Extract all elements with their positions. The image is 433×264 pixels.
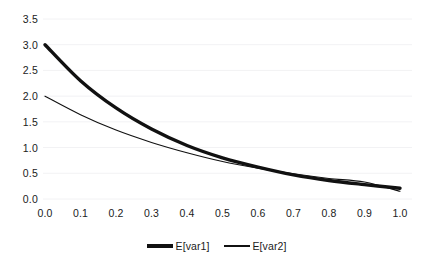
legend-label: E[var1] (176, 241, 210, 252)
y-tick-label-7: 3.5 (12, 14, 38, 25)
series-line-e-var1 (45, 45, 400, 188)
x-tick-label-7: 0.7 (279, 208, 309, 219)
x-tick-label-10: 1.0 (385, 208, 415, 219)
legend-label: E[var2] (253, 241, 287, 252)
y-tick-label-6: 3.0 (12, 40, 38, 51)
x-tick-label-3: 0.3 (137, 208, 167, 219)
y-tick-label-0: 0.0 (12, 194, 38, 205)
series-line-e-var2 (45, 96, 400, 191)
x-tick-label-0: 0.0 (30, 208, 60, 219)
line-chart: 0.00.51.01.52.02.53.03.5 0.00.10.20.30.4… (0, 0, 433, 264)
chart-legend: E[var1]E[var2] (0, 236, 433, 256)
y-tick-label-3: 1.5 (12, 117, 38, 128)
legend-entry-1[interactable]: E[var2] (224, 241, 287, 252)
x-tick-label-5: 0.5 (208, 208, 238, 219)
series-lines (45, 45, 400, 192)
x-tick-label-6: 0.6 (243, 208, 273, 219)
x-tick-label-8: 0.8 (314, 208, 344, 219)
x-tick-label-1: 0.1 (66, 208, 96, 219)
legend-line-swatch-icon (224, 245, 250, 246)
legend-line-swatch-icon (147, 244, 173, 247)
y-tick-label-1: 0.5 (12, 168, 38, 179)
x-tick-label-2: 0.2 (101, 208, 131, 219)
y-tick-label-4: 2.0 (12, 91, 38, 102)
x-tick-label-4: 0.4 (172, 208, 202, 219)
plot-area (0, 0, 433, 264)
y-tick-label-2: 1.0 (12, 143, 38, 154)
gridlines (43, 19, 412, 199)
y-tick-label-5: 2.5 (12, 65, 38, 76)
legend-entry-0[interactable]: E[var1] (147, 241, 210, 252)
x-tick-label-9: 0.9 (350, 208, 380, 219)
